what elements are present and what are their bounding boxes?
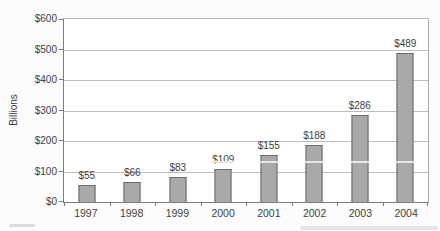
x-axis-labels: 19971998199920002001200220032004 — [63, 207, 429, 219]
bar-category: $55 — [64, 19, 110, 202]
x-tick — [110, 203, 111, 206]
y-tick — [59, 49, 63, 50]
bar-value-label: $66 — [124, 167, 141, 179]
bar-category: $286 — [337, 19, 383, 202]
x-tick — [64, 203, 65, 206]
y-tick — [59, 140, 63, 141]
y-tick — [59, 79, 63, 80]
bar-value-label: $155 — [258, 140, 280, 152]
y-tick — [59, 110, 63, 111]
bar-category: $188 — [292, 19, 338, 202]
x-tick — [246, 203, 247, 206]
bar-value-label: $286 — [349, 100, 371, 112]
bar-category: $66 — [110, 19, 156, 202]
y-tick — [59, 19, 63, 20]
bar-category: $83 — [155, 19, 201, 202]
bar-category: $489 — [383, 19, 429, 202]
scan-highlight-artifact — [64, 161, 428, 163]
x-axis-label: 2001 — [246, 207, 292, 219]
bar — [124, 182, 141, 202]
y-tick — [59, 201, 63, 202]
scan-smudge-left — [9, 224, 35, 227]
bar-value-label: $83 — [169, 162, 186, 174]
x-tick — [292, 203, 293, 206]
x-tick — [427, 203, 428, 206]
x-tick — [337, 203, 338, 206]
y-axis-label: $0 — [0, 196, 57, 208]
plot-area: $55$66$83$109$155$188$286$489 — [63, 18, 429, 203]
bar — [78, 185, 95, 202]
bar — [397, 53, 414, 202]
y-axis-label: $400 — [0, 74, 57, 86]
bar-category: $155 — [246, 19, 292, 202]
bar-value-label: $109 — [212, 154, 234, 166]
bar — [306, 145, 323, 202]
bar — [215, 169, 232, 202]
y-axis-label: $300 — [0, 105, 57, 117]
y-axis-labels: $0$100$200$300$400$500$600 — [0, 19, 57, 202]
y-axis-label: $100 — [0, 166, 57, 178]
x-tick — [383, 203, 384, 206]
scan-smudge-right — [300, 226, 438, 230]
bars-container: $55$66$83$109$155$188$286$489 — [64, 19, 428, 202]
bar — [169, 177, 186, 202]
y-tick — [59, 171, 63, 172]
x-axis-label: 2003 — [338, 207, 384, 219]
x-tick — [155, 203, 156, 206]
y-axis-label: $500 — [0, 44, 57, 56]
bar-value-label: $188 — [303, 130, 325, 142]
x-axis-label: 1999 — [155, 207, 201, 219]
x-axis-label: 1997 — [63, 207, 109, 219]
x-tick — [201, 203, 202, 206]
bar-category: $109 — [201, 19, 247, 202]
bar-chart-figure: Billions $0$100$200$300$400$500$600 $55$… — [0, 0, 440, 231]
bar — [351, 115, 368, 202]
bar-value-label: $55 — [78, 170, 95, 182]
y-axis-label: $200 — [0, 135, 57, 147]
x-axis-label: 2000 — [200, 207, 246, 219]
bar-value-label: $489 — [394, 38, 416, 50]
y-axis-label: $600 — [0, 13, 57, 25]
x-axis-label: 2002 — [292, 207, 338, 219]
x-axis-label: 2004 — [383, 207, 429, 219]
x-axis-label: 1998 — [109, 207, 155, 219]
